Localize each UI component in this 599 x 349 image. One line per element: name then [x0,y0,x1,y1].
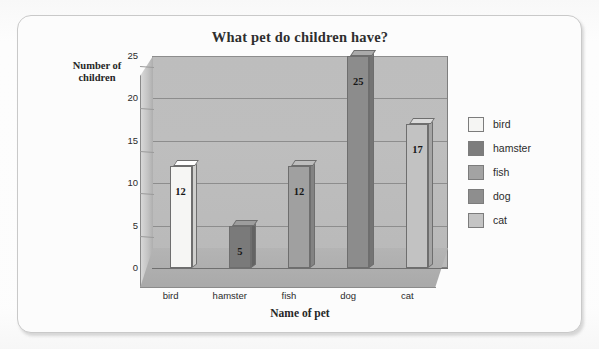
plot-area: 125122517 [140,56,452,288]
y-tick-25: 25 [118,50,138,61]
x-axis-title: Name of pet [150,307,450,319]
chart-title: What pet do children have? [150,29,450,46]
x-tick-fish: fish [259,290,318,301]
chart-legend: birdhamsterfishdogcat [468,112,568,232]
legend-label-bird: bird [493,118,511,130]
x-tick-hamster: hamster [200,290,259,301]
bar-face-fish [288,166,310,268]
bar-fish[interactable]: 12 [288,166,310,268]
gridline-15 [153,141,447,142]
legend-swatch-cat [468,213,484,228]
x-tick-bird: bird [141,290,200,301]
y-tick-15: 15 [118,135,138,146]
bar-face-dog [347,56,369,268]
bar-value-label-fish: 12 [288,186,310,197]
legend-item-dog[interactable]: dog [468,184,568,208]
bar-bird[interactable]: 12 [170,166,192,268]
gridline-20 [153,98,447,99]
legend-label-dog: dog [493,190,511,202]
x-tick-cat: cat [378,290,437,301]
y-tick-10: 10 [118,177,138,188]
bar-side-fish [310,163,315,268]
gridline-25 [153,56,447,57]
bar-value-label-hamster: 5 [229,246,251,257]
bar-value-label-dog: 25 [347,76,369,87]
legend-label-cat: cat [493,214,507,226]
legend-label-fish: fish [493,166,509,178]
legend-swatch-bird [468,117,484,132]
scanned-page: Maths in unit What pet do children have?… [0,0,599,349]
y-tick-5: 5 [118,220,138,231]
y-axis-tick-labels: 0510152025 [112,56,138,288]
y-tick-20: 20 [118,92,138,103]
bar-side-dog [369,52,374,268]
x-axis-tick-labels: birdhamsterfishdogcat [140,290,452,304]
legend-item-cat[interactable]: cat [468,208,568,232]
bar-side-hamster [251,222,256,268]
bar-face-bird [170,166,192,268]
x-tick-dog: dog [319,290,378,301]
plot-floor-back-edge [152,268,448,269]
legend-swatch-dog [468,189,484,204]
bar-value-label-bird: 12 [170,186,192,197]
bar-side-cat [428,120,433,268]
bar-dog[interactable]: 25 [347,56,369,268]
bar-hamster[interactable]: 5 [229,226,251,268]
bar-value-label-cat: 17 [406,144,428,155]
y-tick-0: 0 [118,262,138,273]
bar-side-bird [192,163,197,268]
bar-cat[interactable]: 17 [406,124,428,268]
legend-item-fish[interactable]: fish [468,160,568,184]
plot-floor-front-edge [140,287,436,288]
legend-item-bird[interactable]: bird [468,112,568,136]
legend-swatch-hamster [468,141,484,156]
legend-swatch-fish [468,165,484,180]
legend-label-hamster: hamster [493,142,531,154]
legend-item-hamster[interactable]: hamster [468,136,568,160]
plot-left-wall [140,56,153,288]
